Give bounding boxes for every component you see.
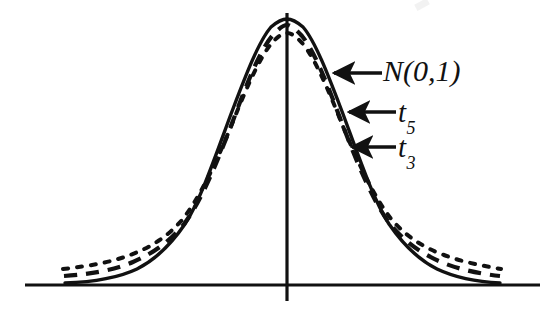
- distribution-plot: [0, 0, 550, 314]
- label-normal-distribution: N(0,1): [383, 56, 461, 86]
- label-normal-text: N(0,1): [383, 54, 461, 87]
- label-t5-base: t: [398, 96, 406, 128]
- label-t5: t5: [398, 98, 415, 132]
- label-t3-base: t: [398, 131, 406, 163]
- label-t3: t3: [398, 133, 415, 167]
- label-t3-subscript: 3: [406, 153, 415, 173]
- distribution-figure: N(0,1) t5 t3: [0, 0, 550, 314]
